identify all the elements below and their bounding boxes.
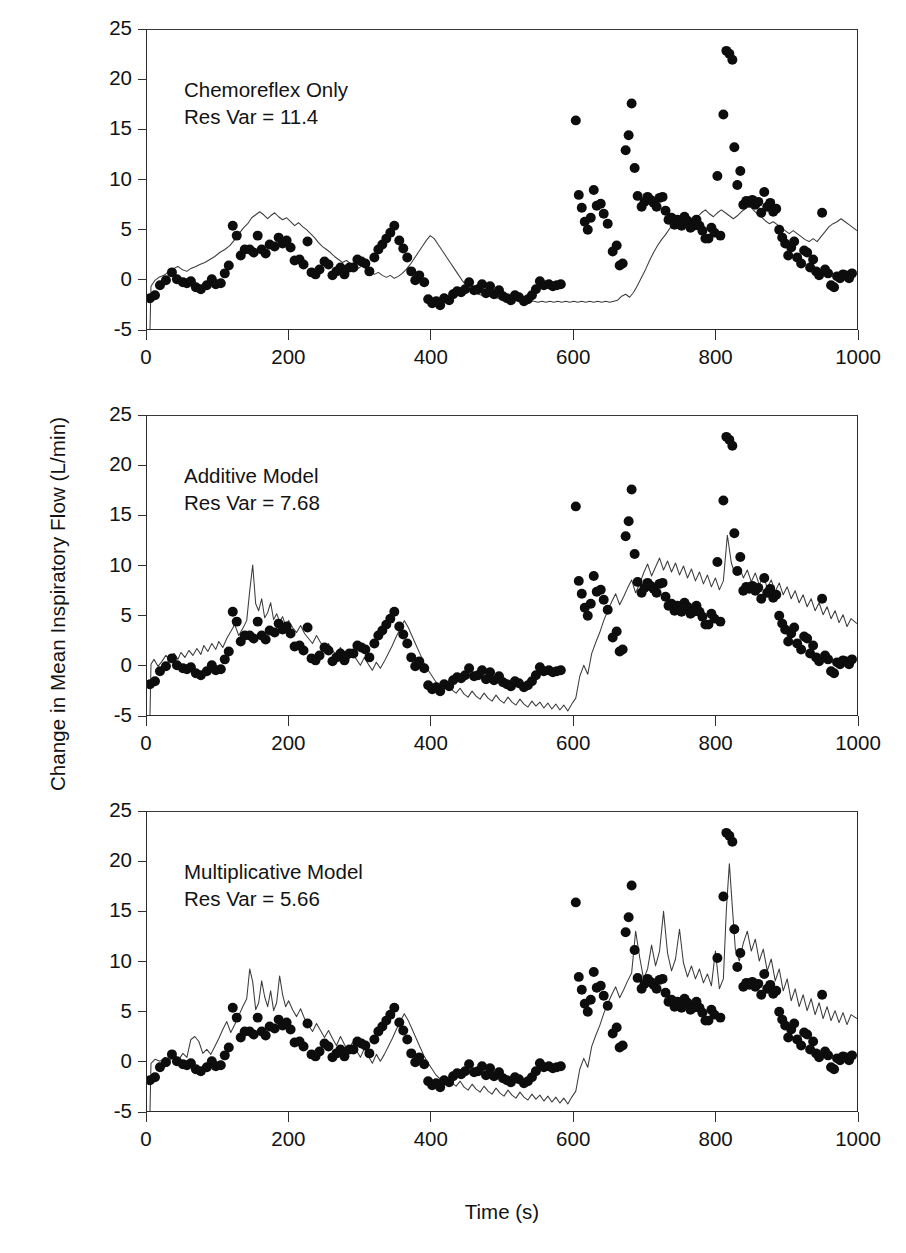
y-tick-mark xyxy=(138,1011,147,1012)
x-tick-mark xyxy=(146,330,147,340)
y-tick-mark xyxy=(138,279,147,280)
plot-svg-panel-2 xyxy=(147,416,857,715)
y-tick-mark xyxy=(138,129,147,130)
y-tick-mark xyxy=(138,861,147,862)
x-tick-mark xyxy=(146,1112,147,1122)
x-tick-label: 1000 xyxy=(813,347,903,368)
y-tick-mark xyxy=(138,1061,147,1062)
x-tick-mark xyxy=(430,716,431,726)
x-tick-mark xyxy=(288,330,289,340)
y-tick-mark xyxy=(138,415,147,416)
x-tick-mark xyxy=(858,1112,859,1122)
y-tick-label: -5 xyxy=(86,1101,132,1122)
x-tick-mark xyxy=(858,716,859,726)
y-tick-label: 10 xyxy=(86,951,132,972)
x-axis-title: Time (s) xyxy=(146,1200,858,1224)
x-tick-label: 800 xyxy=(671,347,761,368)
x-tick-label: 800 xyxy=(671,733,761,754)
y-tick-label: 5 xyxy=(86,219,132,240)
panel-annotation-3: Multiplicative Model Res Var = 5.66 xyxy=(184,858,363,912)
y-tick-label: 25 xyxy=(86,18,132,39)
y-tick-mark xyxy=(138,515,147,516)
x-tick-mark xyxy=(573,1112,574,1122)
panel-annotation-1-line2: Res Var = 11.4 xyxy=(184,103,348,130)
y-tick-mark xyxy=(138,565,147,566)
figure-root: Change in Mean Inspiratory Flow (L/min) xyxy=(0,0,906,1253)
panel-annotation-2-line1: Additive Model xyxy=(184,462,320,489)
x-tick-label: 1000 xyxy=(813,1129,903,1150)
y-tick-mark xyxy=(138,79,147,80)
y-tick-label: 10 xyxy=(86,555,132,576)
y-tick-label: 20 xyxy=(86,850,132,871)
x-tick-mark xyxy=(573,716,574,726)
y-tick-label: 10 xyxy=(86,169,132,190)
x-tick-label: 800 xyxy=(671,1129,761,1150)
x-tick-label: 200 xyxy=(243,347,333,368)
y-tick-label: 15 xyxy=(86,504,132,525)
x-tick-label: 400 xyxy=(386,347,476,368)
y-tick-mark xyxy=(138,29,147,30)
x-tick-mark xyxy=(146,716,147,726)
y-tick-label: 20 xyxy=(86,454,132,475)
x-tick-label: 400 xyxy=(386,1129,476,1150)
panel-annotation-3-line1: Multiplicative Model xyxy=(184,858,363,885)
panel-annotation-1-line1: Chemoreflex Only xyxy=(184,76,348,103)
y-tick-label: 25 xyxy=(86,800,132,821)
y-tick-label: 25 xyxy=(86,404,132,425)
x-tick-mark xyxy=(858,330,859,340)
y-tick-label: 0 xyxy=(86,269,132,290)
y-tick-mark xyxy=(138,465,147,466)
panel-annotation-3-line2: Res Var = 5.66 xyxy=(184,885,363,912)
model-line-panel-1 xyxy=(150,206,857,329)
x-tick-mark xyxy=(715,330,716,340)
panel-annotation-2: Additive Model Res Var = 7.68 xyxy=(184,462,320,516)
y-tick-label: 5 xyxy=(86,605,132,626)
y-tick-mark xyxy=(138,911,147,912)
x-tick-label: 200 xyxy=(243,733,333,754)
x-tick-mark xyxy=(430,330,431,340)
y-tick-mark xyxy=(138,665,147,666)
y-tick-label: -5 xyxy=(86,705,132,726)
x-tick-label: 600 xyxy=(528,347,618,368)
plot-area-panel-3 xyxy=(146,811,858,1112)
x-tick-mark xyxy=(288,716,289,726)
y-tick-label: 5 xyxy=(86,1001,132,1022)
x-tick-mark xyxy=(715,1112,716,1122)
x-tick-label: 0 xyxy=(101,347,191,368)
y-tick-mark xyxy=(138,961,147,962)
x-tick-mark xyxy=(430,1112,431,1122)
y-tick-label: 15 xyxy=(86,900,132,921)
x-tick-label: 0 xyxy=(101,1129,191,1150)
plot-svg-panel-3 xyxy=(147,812,857,1111)
y-tick-mark xyxy=(138,615,147,616)
panel-annotation-1: Chemoreflex Only Res Var = 11.4 xyxy=(184,76,348,130)
y-tick-label: 0 xyxy=(86,1051,132,1072)
y-tick-label: -5 xyxy=(86,319,132,340)
plot-area-panel-2 xyxy=(146,415,858,716)
x-tick-label: 600 xyxy=(528,1129,618,1150)
x-tick-label: 0 xyxy=(101,733,191,754)
y-tick-label: 15 xyxy=(86,118,132,139)
y-tick-mark xyxy=(138,811,147,812)
x-tick-label: 400 xyxy=(386,733,476,754)
plot-area-panel-1 xyxy=(146,29,858,330)
y-tick-mark xyxy=(138,229,147,230)
x-tick-mark xyxy=(715,716,716,726)
panel-annotation-2-line2: Res Var = 7.68 xyxy=(184,489,320,516)
y-tick-label: 20 xyxy=(86,68,132,89)
x-tick-label: 200 xyxy=(243,1129,333,1150)
y-tick-label: 0 xyxy=(86,655,132,676)
plot-svg-panel-1 xyxy=(147,30,857,329)
x-tick-mark xyxy=(288,1112,289,1122)
x-tick-label: 600 xyxy=(528,733,618,754)
x-tick-label: 1000 xyxy=(813,733,903,754)
x-tick-mark xyxy=(573,330,574,340)
y-tick-mark xyxy=(138,179,147,180)
